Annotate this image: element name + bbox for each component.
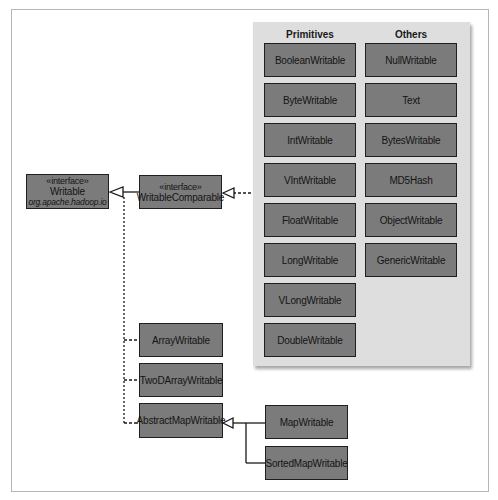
realization-arrow-icon: [223, 188, 234, 198]
inheritance-arrow-icon: [110, 187, 123, 197]
connector-lines: [0, 0, 498, 500]
inheritance-arrow-icon: [223, 418, 233, 428]
